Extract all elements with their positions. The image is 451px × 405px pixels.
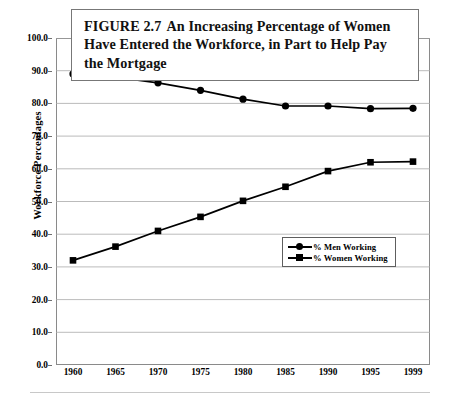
y-axis-tick-label: 90.0 <box>32 66 48 76</box>
legend-label-women: % Women Working <box>313 253 388 263</box>
y-axis-tick-label: 80.0 <box>32 98 48 108</box>
data-point-marker <box>409 105 416 112</box>
data-point-marker <box>240 198 247 205</box>
data-point-marker <box>112 243 119 250</box>
data-point-marker <box>155 228 162 235</box>
legend-marker-circle-icon <box>287 241 313 252</box>
y-axis-tick-label: 100.0 <box>27 33 48 43</box>
x-axis-tick-label: 1975 <box>191 367 210 377</box>
x-axis-tick-label: 1995 <box>361 367 380 377</box>
data-point-marker <box>197 87 204 94</box>
y-axis-tick-label: 60.0 <box>32 164 48 174</box>
x-axis-tick-label: 1980 <box>234 367 253 377</box>
legend-label-men: % Men Working <box>313 242 376 252</box>
chart-plot-area <box>56 38 430 365</box>
y-axis-tick-mark <box>48 234 52 235</box>
y-axis-tick-label: 70.0 <box>32 131 48 141</box>
chart-legend: % Men Working % Women Working <box>282 237 396 267</box>
y-axis-tick-label: 10.0 <box>32 327 48 337</box>
figure-title-box: FIGURE 2.7An Increasing Percentage of Wo… <box>71 9 419 81</box>
x-axis-tick-label: 1990 <box>319 367 338 377</box>
y-axis-tick-label: 20.0 <box>32 295 48 305</box>
data-point-marker <box>367 159 374 166</box>
y-axis-tick-mark <box>48 202 52 203</box>
x-axis-tick-label: 1999 <box>404 367 423 377</box>
data-point-marker <box>410 158 417 165</box>
y-axis-tick-mark <box>48 136 52 137</box>
x-axis-tick-labels: 196019651970197519801985199019951999 <box>56 367 430 387</box>
y-axis-tick-mark <box>48 332 52 333</box>
y-axis-tick-mark <box>48 267 52 268</box>
data-point-marker <box>367 105 374 112</box>
y-axis-tick-mark <box>48 38 52 39</box>
y-axis-tick-label: 40.0 <box>32 229 48 239</box>
data-point-marker <box>239 96 246 103</box>
data-point-marker <box>282 102 289 109</box>
legend-item-men: % Men Working <box>287 241 388 252</box>
figure-container: FIGURE 2.7An Increasing Percentage of Wo… <box>0 0 451 405</box>
y-axis-tick-mark <box>48 169 52 170</box>
y-axis-tick-mark <box>48 103 52 104</box>
data-point-marker <box>197 214 204 221</box>
y-axis-tick-mark <box>48 71 52 72</box>
legend-item-women: % Women Working <box>287 252 388 263</box>
y-axis-tick-label: 30.0 <box>32 262 48 272</box>
page-title: FIGURE 2.7An Increasing Percentage of Wo… <box>84 17 409 72</box>
x-axis-tick-label: 1960 <box>64 367 83 377</box>
data-point-marker <box>282 183 289 190</box>
y-axis-tick-label: 0.0 <box>36 360 48 370</box>
data-point-marker <box>325 168 332 175</box>
x-axis-tick-label: 1970 <box>149 367 168 377</box>
y-axis-tick-mark <box>48 365 52 366</box>
y-axis-tick-labels: 100.090.080.070.060.050.040.030.020.010.… <box>10 38 52 365</box>
y-axis-tick-label: 50.0 <box>32 197 48 207</box>
figure-number: FIGURE 2.7 <box>84 18 161 34</box>
data-point-marker <box>70 257 77 264</box>
data-point-marker <box>324 102 331 109</box>
y-axis-tick-mark <box>48 300 52 301</box>
x-axis-tick-label: 1985 <box>276 367 295 377</box>
legend-marker-square-icon <box>287 252 313 263</box>
page-divider-rule <box>30 392 430 393</box>
x-axis-tick-label: 1965 <box>106 367 125 377</box>
